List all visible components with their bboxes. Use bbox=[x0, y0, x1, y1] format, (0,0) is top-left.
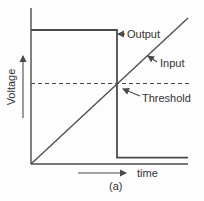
input-pointer-arrow bbox=[148, 56, 157, 62]
comparator-voltage-time-figure: Voltage Output Input Threshold time (a) bbox=[0, 0, 204, 201]
threshold-annotation-label: Threshold bbox=[142, 92, 191, 104]
figure-caption: (a) bbox=[109, 180, 122, 192]
input-annotation-label: Input bbox=[160, 57, 184, 69]
y-axis-label: Voltage bbox=[5, 66, 17, 108]
threshold-pointer-arrow bbox=[123, 89, 140, 96]
output-annotation-label: Output bbox=[127, 28, 160, 40]
x-axis-label: time bbox=[137, 167, 158, 179]
